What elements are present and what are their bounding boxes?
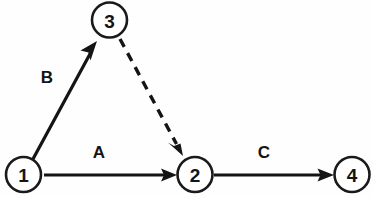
- edge-dummy-line: [120, 39, 177, 144]
- node-3[interactable]: 3: [92, 3, 127, 38]
- edge-b[interactable]: [33, 41, 97, 159]
- node-2-label: 2: [190, 165, 201, 186]
- network-diagram: 1 3 2 4 A B C: [0, 0, 373, 197]
- node-1[interactable]: 1: [6, 157, 41, 192]
- node-4-label: 4: [347, 165, 358, 186]
- edge-c[interactable]: [214, 169, 334, 182]
- diagram-canvas: 1 3 2 4 A B C: [0, 0, 373, 197]
- node-4[interactable]: 4: [335, 157, 370, 192]
- edge-b-label: B: [41, 68, 53, 87]
- node-2[interactable]: 2: [178, 157, 213, 192]
- node-3-label: 3: [104, 11, 115, 32]
- edge-c-label: C: [258, 143, 270, 162]
- node-1-label: 1: [18, 165, 29, 186]
- edge-dummy-dashed[interactable]: [120, 39, 183, 156]
- edge-a[interactable]: [44, 169, 177, 182]
- edge-a-label: A: [93, 143, 105, 162]
